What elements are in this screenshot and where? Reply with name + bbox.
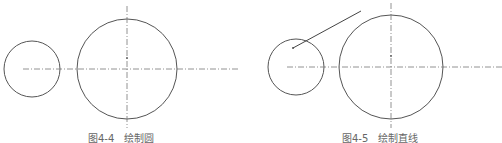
line-start-point [292, 47, 294, 49]
caption-title: 绘制圆 [124, 133, 154, 143]
figure-right [268, 3, 502, 128]
figure-left [4, 6, 238, 128]
caption-title: 绘制直线 [378, 133, 418, 143]
center-point [126, 57, 128, 59]
center-point [390, 55, 392, 57]
caption-number: 图4-5 [342, 133, 368, 143]
caption-number: 图4-4 [88, 133, 114, 143]
caption-left: 图4-4 绘制圆 [88, 134, 154, 143]
caption-right: 图4-5 绘制直线 [342, 134, 418, 143]
drawing-canvas [0, 0, 502, 143]
drawn-line [293, 11, 361, 48]
